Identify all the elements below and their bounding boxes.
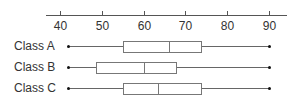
x-tick: [227, 11, 228, 16]
lower-whisker: [68, 88, 122, 89]
upper-whisker: [202, 46, 269, 47]
x-tick-label: 60: [138, 19, 151, 33]
x-tick-label: 90: [263, 19, 276, 33]
iqr-box: [123, 83, 202, 95]
max-point: [268, 45, 271, 48]
iqr-box: [123, 41, 202, 53]
x-tick-label: 70: [179, 19, 192, 33]
category-label: Class C: [14, 81, 56, 95]
min-point: [67, 45, 70, 48]
x-tick: [185, 11, 186, 16]
x-tick-label: 80: [221, 19, 234, 33]
median-line: [158, 83, 159, 95]
lower-whisker: [68, 67, 95, 68]
median-line: [169, 41, 170, 53]
category-label: Class A: [14, 39, 55, 53]
upper-whisker: [177, 67, 269, 68]
x-tick: [102, 11, 103, 16]
median-line: [144, 62, 145, 74]
x-tick: [144, 11, 145, 16]
min-point: [67, 87, 70, 90]
category-label: Class B: [14, 60, 55, 74]
iqr-box: [96, 62, 178, 74]
upper-whisker: [202, 88, 269, 89]
x-tick: [269, 11, 270, 16]
lower-whisker: [68, 46, 122, 47]
x-axis-line: [46, 15, 287, 16]
x-tick-label: 40: [54, 19, 67, 33]
max-point: [268, 66, 271, 69]
box-plot-chart: 405060708090 Class AClass BClass C: [0, 0, 295, 104]
max-point: [268, 87, 271, 90]
x-tick: [60, 11, 61, 16]
x-tick-label: 50: [96, 19, 109, 33]
min-point: [67, 66, 70, 69]
